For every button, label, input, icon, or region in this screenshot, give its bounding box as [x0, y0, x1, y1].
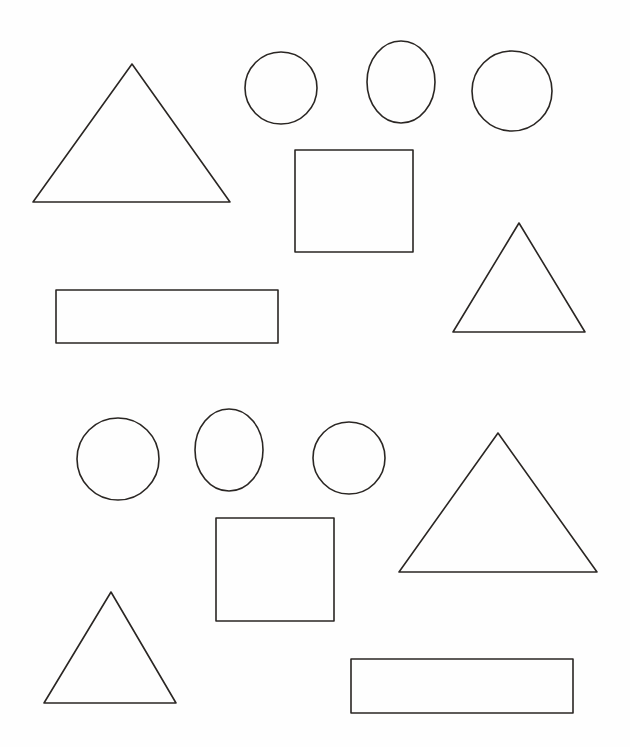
large-triangle-shape [33, 64, 230, 202]
oval-shape [367, 41, 435, 123]
circle-shape [472, 51, 552, 131]
section-bottom [44, 409, 597, 713]
square-shape [216, 518, 334, 621]
square-shape [295, 150, 413, 252]
small-triangle-shape [453, 223, 585, 332]
shapes-drawing [0, 0, 630, 747]
circle-shape [313, 422, 385, 494]
long-rectangle-shape [351, 659, 573, 713]
section-top [33, 41, 585, 343]
circle-shape [245, 52, 317, 124]
oval-shape [195, 409, 263, 491]
small-triangle-shape [44, 592, 176, 703]
long-rectangle-shape [56, 290, 278, 343]
large-triangle-shape [399, 433, 597, 572]
worksheet-canvas [0, 0, 630, 747]
circle-shape [77, 418, 159, 500]
